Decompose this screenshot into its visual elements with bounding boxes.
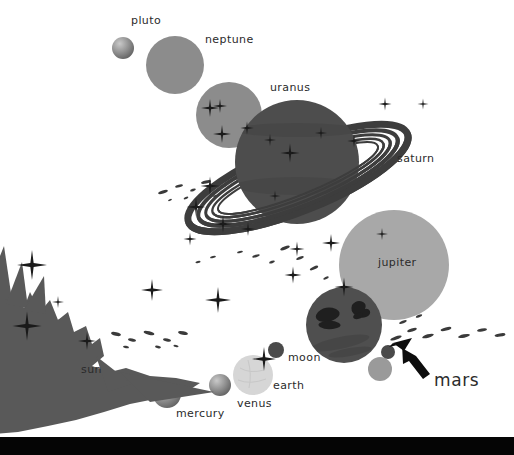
- label-uranus: uranus: [270, 82, 310, 93]
- asteroid-large: [368, 357, 392, 381]
- label-moon: moon: [288, 352, 321, 363]
- planet-neptune: [146, 36, 204, 94]
- bottom-black-band: [0, 437, 514, 455]
- label-venus: venus: [237, 398, 272, 409]
- label-jupiter: jupiter: [378, 257, 416, 268]
- planet-moon: [268, 342, 284, 358]
- label-neptune: neptune: [205, 34, 254, 45]
- label-earth: earth: [273, 380, 304, 391]
- planet-pluto: [112, 37, 134, 59]
- label-mars: mars: [434, 372, 479, 389]
- label-sun: sun: [81, 364, 102, 375]
- planet-venus: [209, 374, 231, 396]
- label-pluto: pluto: [131, 15, 161, 26]
- asteroid-small: [381, 345, 395, 359]
- illustration-canvas: pluto neptune uranus saturn jupiter moon…: [0, 0, 514, 455]
- label-saturn: saturn: [397, 153, 434, 164]
- label-mercury: mercury: [176, 408, 225, 419]
- planet-earth: [233, 355, 273, 395]
